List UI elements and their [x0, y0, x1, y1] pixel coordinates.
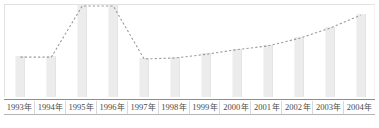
x-axis-tick-year: 1995 [69, 102, 86, 112]
x-axis-tick-label: 1997年 [128, 101, 159, 115]
x-axis-tick-year-suffix: 年 [178, 103, 187, 112]
x-axis-labels-underline [4, 114, 375, 115]
x-axis-tick-label: 2003年 [313, 101, 344, 115]
x-axis-labels: 1993年1994年1995年1996年1997年1998年1999年2000年… [4, 101, 375, 115]
x-axis-tick-label: 1998年 [159, 101, 190, 115]
x-axis-tick-year-suffix: 年 [364, 103, 373, 112]
x-axis-tick-label: 1995年 [66, 101, 97, 115]
x-axis-tick-year-suffix: 年 [116, 103, 125, 112]
plot-area [4, 4, 375, 97]
x-axis-tick-year: 1996 [99, 102, 116, 112]
x-axis-tick-year: 2001 [254, 102, 271, 112]
x-axis-tick-year-suffix: 年 [240, 103, 249, 112]
chart-container: 1993年1994年1995年1996年1997年1998年1999年2000年… [0, 0, 379, 128]
x-axis-tick-year-suffix: 年 [55, 103, 64, 112]
x-axis-tick-year: 1998 [161, 102, 178, 112]
x-axis-tick-label: 1993年 [4, 101, 35, 115]
x-axis-tick-label: 1996年 [97, 101, 128, 115]
x-axis-tick-year-suffix: 年 [333, 103, 342, 112]
x-axis-tick-year: 1997 [130, 102, 147, 112]
x-axis-tick-label: 2000年 [220, 101, 251, 115]
x-axis-tick-year: 2002 [285, 102, 302, 112]
x-axis-tick-year: 1999 [192, 102, 209, 112]
x-axis-tick-year: 1994 [38, 102, 55, 112]
x-axis-tick-year: 2003 [316, 102, 333, 112]
trend-line-layer [5, 5, 376, 98]
x-axis-line [4, 99, 375, 100]
x-axis-tick-label: 1994年 [35, 101, 66, 115]
x-axis-tick-label: 2002年 [282, 101, 313, 115]
x-axis-tick-year: 2004 [347, 102, 364, 112]
x-axis-tick-year-suffix: 年 [24, 103, 33, 112]
x-axis-tick-label: 1999年 [190, 101, 221, 115]
x-axis-tick-year-suffix: 年 [302, 103, 311, 112]
trend-line-path [20, 6, 360, 59]
x-axis-tick-year-suffix: 年 [271, 103, 280, 112]
x-axis-tick-year-suffix: 年 [209, 103, 218, 112]
x-axis-tick-label: 2004年 [344, 101, 375, 115]
x-axis-tick-year-suffix: 年 [86, 103, 95, 112]
x-axis-tick-year: 2000 [223, 102, 240, 112]
x-axis-tick-year-suffix: 年 [147, 103, 156, 112]
x-axis-tick-year: 1993 [7, 102, 24, 112]
x-axis-tick-label: 2001年 [251, 101, 282, 115]
